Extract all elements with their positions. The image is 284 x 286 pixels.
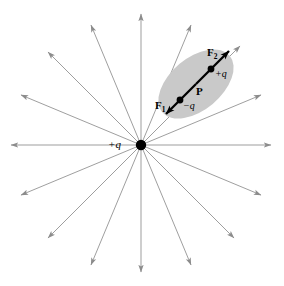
force-1-label: F1: [155, 100, 165, 114]
force-1-symbol: F: [155, 99, 162, 111]
force-2-subscript: 2: [214, 52, 218, 61]
dipole-negative-charge-label: −q: [183, 101, 195, 111]
dipole-positive-charge-label: +q: [215, 69, 227, 79]
field-line-10: [48, 145, 141, 238]
source-charge-label: +q: [108, 139, 121, 150]
force-1-subscript: 1: [162, 105, 166, 114]
field-line-14: [141, 145, 234, 238]
force-2-symbol: F: [207, 46, 214, 58]
dipole-positive-charge-dot: [208, 66, 215, 73]
dipole-moment-label: P: [196, 86, 203, 97]
field-line-6: [48, 52, 141, 145]
source-charge-dot: [136, 140, 146, 150]
figure-canvas: [0, 0, 284, 286]
electric-field-dipole-figure: +q F1 F2 −q +q P: [0, 0, 284, 286]
force-2-label: F2: [207, 47, 217, 61]
